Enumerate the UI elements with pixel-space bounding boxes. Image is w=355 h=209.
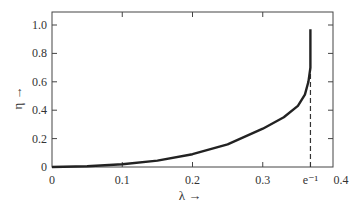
y-tick-label: 0.2	[32, 132, 47, 146]
y-tick-label: 0	[41, 160, 47, 174]
chart: 00.10.20.3e⁻¹0.400.20.40.60.81.0 λ → η →	[0, 0, 355, 209]
y-tick-label: 0.6	[32, 75, 47, 89]
x-tick-label: 0.4	[334, 173, 349, 187]
x-tick-label: 0.2	[185, 173, 200, 187]
y-tick-label: 1.0	[32, 18, 47, 32]
plot-frame	[52, 12, 333, 167]
y-tick-label: 0.4	[32, 103, 47, 117]
x-tick-label: e⁻¹	[303, 173, 319, 187]
y-axis-label: η →	[10, 86, 25, 109]
y-tick-label: 0.8	[32, 46, 47, 60]
efficiency-curve	[52, 29, 310, 167]
ticks	[52, 12, 333, 167]
x-tick-label: 0	[49, 173, 55, 187]
x-axis-label: λ →	[179, 188, 202, 203]
x-tick-label: 0.1	[115, 173, 130, 187]
x-tick-label: 0.3	[255, 173, 270, 187]
